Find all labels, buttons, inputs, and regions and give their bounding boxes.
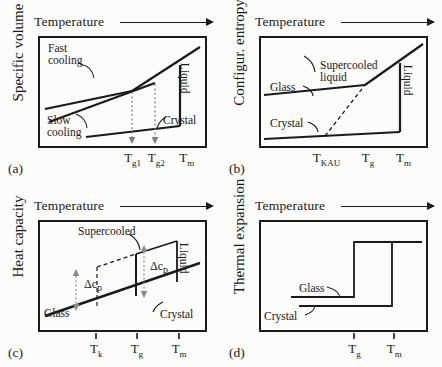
temperature-label: Temperature (34, 198, 104, 214)
slow-cooling-label: Slowcooling (47, 114, 82, 139)
supercooled-liquid-label: Supercooledliquid (320, 59, 377, 84)
x-tick-row-d: Tg Tm (259, 334, 428, 360)
crystal-label: Crystal (160, 308, 193, 320)
delta-cp-left-arrowhead-up-icon (73, 269, 80, 276)
crystal-label: Crystal (163, 114, 196, 126)
panel-c: Temperature Heat capacity (0, 184, 221, 367)
plot-area-a: Fastcooling Slowcooling Liquid Crystal (38, 36, 207, 148)
tick-tm: Tm (396, 150, 411, 168)
x-axis-header-b: Temperature (255, 11, 435, 33)
panel-d: Temperature Thermal expansion Glass Crys… (221, 184, 442, 367)
x-tick-row-c: Tk Tg Tm (38, 334, 207, 360)
glass-label: Glass (44, 307, 70, 319)
supercooled-liquid-label: Supercooled (78, 225, 135, 237)
liquid-label: Liquid (177, 243, 189, 274)
panel-a: Temperature Specific volume (0, 0, 221, 183)
tick-tm: Tm (179, 150, 194, 168)
plot-area-d: Glass Crystal (259, 220, 428, 332)
x-tick-marks-c (38, 333, 207, 340)
crystal-label: Crystal (264, 310, 297, 322)
liquid-label: Liquid (178, 63, 190, 94)
glass-label: Glass (299, 282, 325, 294)
tick-tg: Tg (348, 341, 360, 359)
delta-cp-label-left: Δcp (84, 278, 102, 294)
fast-cooling-label: Fastcooling (48, 42, 83, 67)
x-axis-header-a: Temperature (34, 11, 214, 33)
y-axis-label-b: Configur. entropy (231, 0, 248, 118)
plot-area-b: Supercooledliquid Glass Crystal Liquid (259, 36, 428, 148)
right-arrow-icon (341, 202, 435, 211)
crystal-curve (264, 132, 400, 139)
tg1-arrowhead-icon (129, 137, 136, 144)
delta-cp-left-arrowhead-down-icon (73, 304, 80, 311)
tick-tm: Tm (172, 341, 187, 359)
tick-tkau: TKAU (313, 150, 340, 168)
panel-b: Temperature Configur. entropy (221, 0, 442, 183)
y-axis-label-a: Specific volume (10, 0, 27, 118)
crystal-leader (305, 306, 315, 315)
x-tick-row-b: TKAU Tg Tm (259, 150, 428, 176)
panel-tag-c: (c) (8, 345, 23, 361)
tg2-arrowhead-icon (152, 137, 159, 144)
kauzmann-extrapolation-line (325, 85, 365, 136)
glass-transition-figure: Temperature Specific volume (0, 0, 442, 367)
tick-tg1: Tg1 (124, 150, 141, 168)
tick-tg: Tg (362, 150, 374, 168)
temperature-label: Temperature (34, 14, 104, 30)
x-tick-marks-d (259, 333, 428, 340)
crystal-curve (86, 126, 180, 137)
x-axis-header-c: Temperature (34, 195, 214, 217)
panel-tag-d: (d) (229, 345, 245, 361)
plot-area-c: Supercooled Glass Crystal Liquid Δcp Δcp (38, 220, 207, 332)
x-tick-row-a: Tg1 Tg2 Tm (38, 150, 207, 176)
supercooled-leader (304, 56, 315, 72)
delta-cp-right-arrowhead-down-icon (141, 291, 148, 298)
supercooled-liquid-curve (97, 254, 136, 267)
right-arrow-icon (341, 18, 435, 27)
temperature-label: Temperature (255, 14, 325, 30)
tick-tk: Tk (90, 341, 102, 359)
delta-cp-label-right: Δcp (150, 260, 168, 276)
crystal-leader (308, 122, 318, 132)
delta-cp-right-arrowhead-up-icon (141, 245, 148, 252)
right-arrow-icon (120, 202, 214, 211)
crystal-label: Crystal (270, 117, 303, 129)
x-axis-header-d: Temperature (255, 195, 435, 217)
liquid-upper-curve (136, 241, 177, 254)
glass-label: Glass (270, 81, 296, 93)
tick-tg2: Tg2 (148, 150, 165, 168)
liquid-label: Liquid (401, 65, 413, 96)
temperature-label: Temperature (255, 198, 325, 214)
tick-tm: Tm (387, 341, 402, 359)
right-arrow-icon (120, 18, 214, 27)
y-axis-label-c: Heat capacity (10, 172, 27, 302)
y-axis-label-d: Thermal expansion (231, 172, 248, 302)
tick-tg: Tg (131, 341, 143, 359)
